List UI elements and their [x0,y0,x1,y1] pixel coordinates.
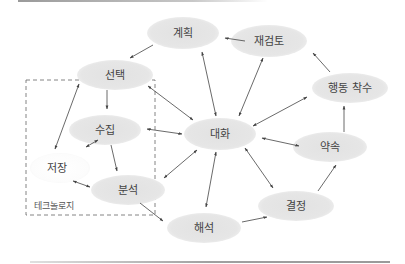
node-label-interpret: 해석 [194,221,214,235]
node-label-store: 저장 [47,162,67,175]
node-label-analyze: 분석 [118,184,138,197]
edge-dialogue-interpret [206,152,216,207]
node-store: 저장 [30,153,90,183]
edge-decide-to-promise [318,165,336,191]
edge-dialogue-promise [262,138,299,146]
edge-analyze-to-interpret [140,203,163,221]
cycle-diagram: 테크놀로지 계획 재검토 선택 행동 착수 수집 대화 약속 저장 분석 결정 [0,0,405,264]
node-promise: 약속 [293,132,367,162]
edge-dialogue-analyze [164,150,197,178]
node-label-collect: 수집 [95,124,115,137]
edge-dialogue-decide [245,148,273,188]
edge-plan-to-select [130,45,153,58]
node-label-decide: 결정 [286,200,306,213]
edge-dialogue-action [253,97,307,126]
technology-group-label: 테크놀로지 [34,201,74,211]
node-plan: 계획 [147,17,219,49]
node-interpret: 해석 [167,213,241,243]
node-label-action: 행동 착수 [328,82,372,95]
edge-dialogue-review [239,58,263,116]
edge-store-analyze [73,181,90,187]
node-label-plan: 계획 [173,27,193,40]
node-label-select: 선택 [105,69,125,82]
node-select: 선택 [77,60,153,90]
bottom-rule [30,261,390,263]
node-analyze: 분석 [91,175,165,205]
edge-store-select [55,84,79,149]
edge-collect-to-analyze [111,145,117,171]
node-collect: 수집 [69,115,141,145]
node-decide: 결정 [258,191,334,221]
edge-dialogue-plan [202,52,216,116]
edge-action-to-review [313,53,330,72]
node-label-promise: 약속 [320,140,340,154]
node-dialogue: 대화 [184,118,256,150]
edge-dialogue-collect [147,129,182,134]
node-label-review: 재검토 [254,35,284,48]
node-label-dialogue: 대화 [210,128,230,141]
edge-interpret-to-decide [242,217,267,222]
node-action: 행동 착수 [312,73,388,103]
